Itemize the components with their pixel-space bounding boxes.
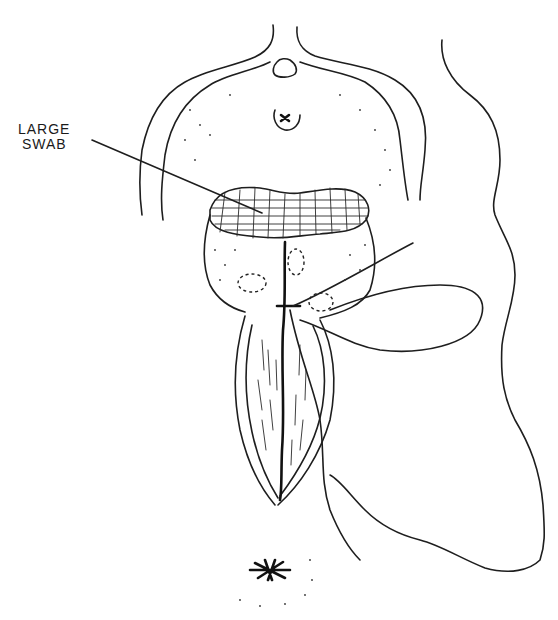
surgical-illustration: LARGE SWAB — [0, 0, 558, 620]
central-suture-line — [280, 242, 285, 500]
wound-left-outer — [235, 316, 275, 505]
stippling — [184, 94, 391, 607]
stitch-right — [309, 293, 333, 311]
line-drawing — [0, 0, 558, 620]
stitch-apex — [288, 249, 304, 275]
clitoris — [273, 59, 296, 77]
upper-cleft-left — [140, 25, 274, 215]
label-line-1: LARGE — [18, 122, 70, 137]
anus — [250, 560, 290, 580]
swab-leader-line — [92, 140, 262, 213]
wound-right-outer — [278, 320, 334, 505]
large-swab-label: LARGE SWAB — [18, 122, 70, 152]
inner-outline-right — [300, 62, 408, 200]
label-line-2: SWAB — [18, 137, 70, 152]
meatus-mark — [281, 115, 289, 121]
upper-cleft-right — [297, 27, 426, 200]
thigh-contour — [330, 40, 544, 571]
wound-left-inner — [246, 325, 278, 498]
stitch-left — [238, 274, 266, 292]
